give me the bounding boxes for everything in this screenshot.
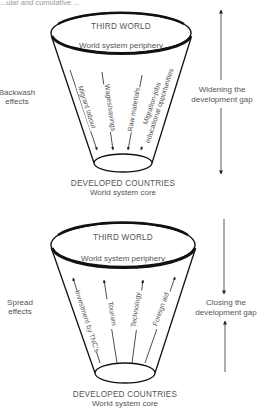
backwash-effects-label-line2: effects xyxy=(5,97,28,106)
flow-wages-savings: Wages/savings xyxy=(103,84,118,132)
cone-bottom-ellipse xyxy=(95,363,155,383)
flow-foreign-aid: Foreign aid xyxy=(151,291,171,327)
widening-gap-arrows: Widening the development gap xyxy=(191,10,253,174)
lower-periphery-label: World system periphery xyxy=(81,254,165,263)
lower-third-world-label: THIRD WORLD xyxy=(93,233,153,242)
flow-migrant-labour: Migrant labour xyxy=(76,85,98,131)
closing-gap-arrows: Closing the development gap xyxy=(195,219,257,372)
lower-core-label: World system core xyxy=(92,399,159,408)
closing-gap-label-line1: Closing the xyxy=(206,298,247,307)
widening-gap-label-line1: Widening the xyxy=(199,85,246,94)
development-gap-diagram: ...ular and cumulative ... THIRD WORLD W… xyxy=(0,0,277,413)
caption-fragment: ...ular and cumulative ... xyxy=(0,0,80,7)
upper-cone: THIRD WORLD World system periphery Migra… xyxy=(51,13,191,197)
upper-periphery-label: World system periphery xyxy=(79,41,163,50)
spread-effects-label-line2: effects xyxy=(8,307,31,316)
flow-raw-materials: Raw materials xyxy=(126,87,141,132)
backwash-effects-label-line1: Backwash xyxy=(0,88,35,97)
closing-gap-label-line2: development gap xyxy=(195,308,257,317)
upper-core-label: World system core xyxy=(90,188,157,197)
widening-gap-label-line2: development gap xyxy=(191,95,253,104)
upper-third-world-label: THIRD WORLD xyxy=(91,22,151,31)
lower-developed-countries-label: DEVELOPED COUNTRIES xyxy=(73,390,178,399)
flow-technology: Technology xyxy=(130,291,143,328)
spread-effects-label-line1: Spread xyxy=(7,298,33,307)
upper-developed-countries-label: DEVELOPED COUNTRIES xyxy=(71,179,176,188)
lower-cone: THIRD WORLD World system periphery Inves… xyxy=(51,222,195,408)
cone-bottom-ellipse xyxy=(94,154,152,172)
